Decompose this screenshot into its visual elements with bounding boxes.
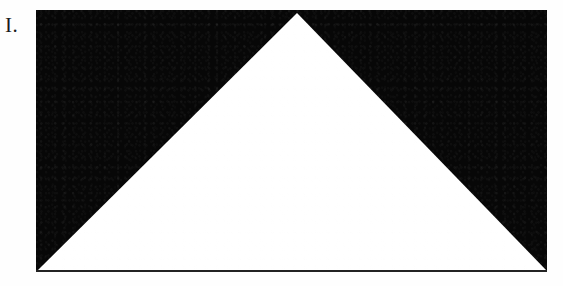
triangle-figure-svg	[36, 10, 547, 272]
figure-plate-container: I.	[0, 0, 563, 286]
figure-label: I.	[5, 14, 18, 36]
figure-plate	[36, 10, 547, 272]
plate-baseline-rule	[36, 270, 547, 272]
white-triangle-shape	[37, 13, 547, 271]
